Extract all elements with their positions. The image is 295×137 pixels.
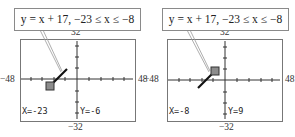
equation-callout: y = x + 17, −23 ≤ x ≤ −8 bbox=[14, 8, 141, 31]
graph-panel-right: y = x + 17, −23 ≤ x ≤ −8 32 −48 48 −32 X… bbox=[147, 0, 295, 137]
y-readout: Y=-6 bbox=[80, 106, 100, 116]
x-readout: X=-8 bbox=[169, 106, 189, 116]
trace-cursor bbox=[46, 82, 54, 90]
x-readout: X=-23 bbox=[22, 106, 48, 116]
y-readout: Y=9 bbox=[228, 106, 243, 116]
equation-callout: y = x + 17, −23 ≤ x ≤ −8 bbox=[162, 8, 289, 31]
trace-cursor bbox=[211, 67, 219, 75]
graph-panel-left: y = x + 17, −23 ≤ x ≤ −8 32 −48 48 −32 X… bbox=[0, 0, 148, 137]
